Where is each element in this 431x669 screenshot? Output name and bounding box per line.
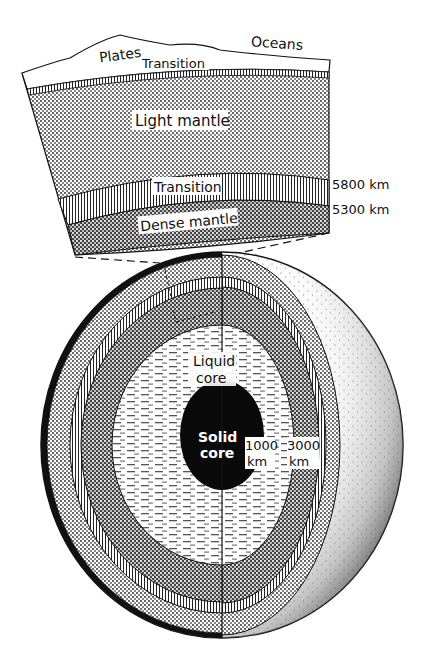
label-radius-1000-unit: km bbox=[247, 454, 267, 469]
label-liquid-core-1: Liquid bbox=[193, 353, 235, 369]
label-solid-core-2: core bbox=[200, 445, 234, 461]
label-radius-1000: 1000 bbox=[245, 438, 278, 453]
label-light-mantle: Light mantle bbox=[135, 112, 230, 130]
projection-line-left bbox=[75, 257, 160, 263]
label-radius-3000: 3000 bbox=[287, 438, 320, 453]
label-radius-3000-unit: km bbox=[289, 454, 309, 469]
depth-marker-5300: 5300 km bbox=[332, 202, 389, 217]
depth-marker-5800: 5800 km bbox=[332, 177, 389, 192]
label-liquid-core-2: core bbox=[196, 370, 226, 386]
label-transition-top: Transition bbox=[141, 56, 205, 71]
label-oceans: Oceans bbox=[251, 33, 304, 53]
label-transition-mid: Transition bbox=[153, 179, 222, 195]
label-solid-core-1: Solid bbox=[198, 429, 237, 445]
earth-interior-diagram: Plates Oceans Transition Light mantle Tr… bbox=[0, 0, 431, 669]
